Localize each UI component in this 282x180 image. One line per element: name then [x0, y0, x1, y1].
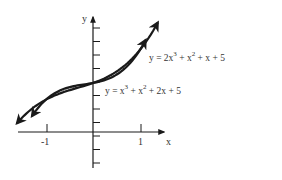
curve2-equation-label: y = x3 + x2 + 2x + 5 [105, 83, 181, 96]
y-axis-ticks [93, 28, 100, 163]
area-between-curves-diagram: -1 1 x y y = 2x3 + x2 + x + 5 y = x3 + x… [0, 0, 282, 180]
shaded-region [93, 50, 140, 83]
x-tick-label-pos1: 1 [138, 136, 143, 147]
curve1-equation-label: y = 2x3 + x2 + x + 5 [149, 50, 225, 63]
x-axis-label: x [166, 136, 171, 147]
curve-2x3-x2-x-5 [32, 40, 146, 116]
y-axis-label: y [82, 13, 87, 24]
x-tick-label-neg1: -1 [41, 136, 49, 147]
